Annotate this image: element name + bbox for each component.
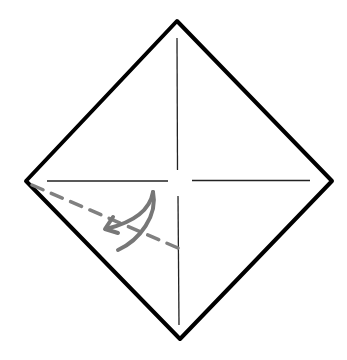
origami-diagram (0, 0, 347, 360)
